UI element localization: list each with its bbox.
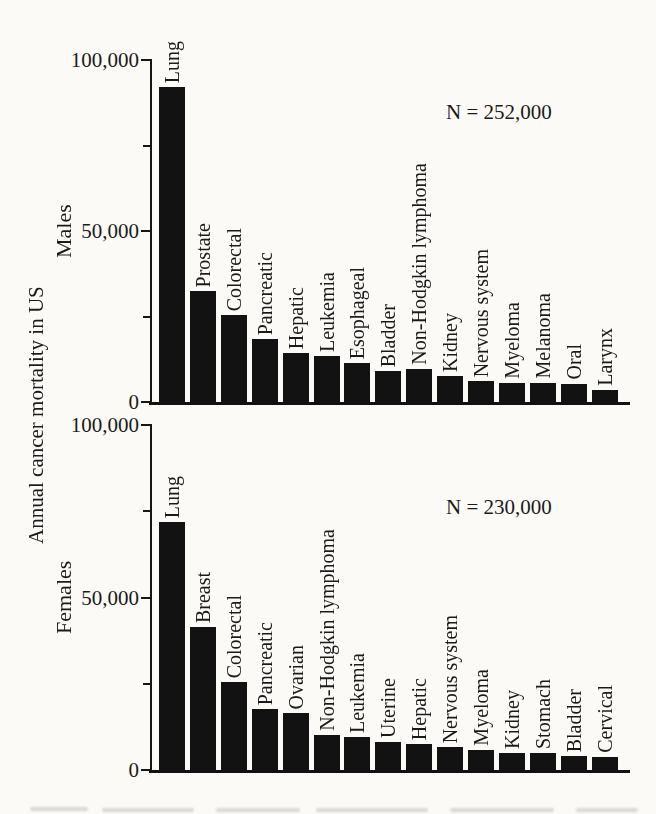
- males-bar-label-melanoma: Melanoma: [533, 293, 553, 379]
- females-bar-label-breast: Breast: [193, 572, 213, 623]
- females-y-minor-tick: [143, 683, 150, 685]
- cutoff-caption-artifact: [216, 808, 300, 812]
- females-bar-label-uterine: Uterine: [378, 678, 398, 738]
- females-bar-label-myeloma: Myeloma: [471, 669, 491, 746]
- males-y-tick-50-000: [141, 230, 150, 232]
- males-bar-kidney: [437, 376, 463, 402]
- males-bar-bladder: [375, 371, 401, 402]
- males-bar-prostate: [190, 291, 216, 402]
- males-bar-label-leukemia: Leukemia: [317, 272, 337, 352]
- females-y-tick-label-50-000: 50,000: [49, 587, 139, 609]
- females-x-baseline: [149, 770, 630, 773]
- females-bar-lung: [159, 522, 185, 770]
- females-bar-label-stomach: Stomach: [533, 679, 553, 749]
- males-bar-melanoma: [530, 383, 556, 402]
- males-y-axis-line: [150, 59, 152, 402]
- males-bar-label-non-hodgkin-lymphoma: Non-Hodgkin lymphoma: [409, 163, 429, 365]
- females-bar-label-pancreatic: Pancreatic: [255, 622, 275, 705]
- females-bar-breast: [190, 627, 216, 770]
- females-bar-uterine: [375, 742, 401, 770]
- cutoff-caption-artifact: [576, 808, 638, 812]
- males-bar-label-hepatic: Hepatic: [286, 287, 306, 349]
- females-bar-non-hodgkin-lymphoma: [314, 735, 340, 770]
- males-y-tick-0: [141, 401, 150, 403]
- females-bar-label-nervous-system: Nervous system: [440, 615, 460, 743]
- males-bar-label-prostate: Prostate: [193, 223, 213, 287]
- males-bar-label-myeloma: Myeloma: [502, 302, 522, 379]
- males-bar-label-esophageal: Esophageal: [347, 267, 367, 359]
- cutoff-caption-artifact: [316, 808, 428, 812]
- females-bar-ovarian: [283, 713, 309, 770]
- males-bar-larynx: [592, 390, 618, 402]
- cutoff-caption-artifact: [30, 807, 88, 811]
- females-y-minor-tick: [143, 510, 150, 512]
- females-bar-label-cervical: Cervical: [595, 685, 615, 753]
- females-bar-pancreatic: [252, 709, 278, 770]
- females-bar-nervous-system: [437, 747, 463, 770]
- males-plot-area: 050,000100,000LungProstateColorectalPanc…: [151, 60, 630, 402]
- males-y-minor-tick: [143, 316, 150, 318]
- males-bar-lung: [159, 87, 185, 402]
- females-y-tick-0: [141, 769, 150, 771]
- males-bar-colorectal: [221, 315, 247, 402]
- females-plot-area: 050,000100,000LungBreastColorectalPancre…: [151, 425, 630, 770]
- males-bar-hepatic: [283, 353, 309, 402]
- males-bar-pancreatic: [252, 339, 278, 402]
- y-axis-title: Annual cancer mortality in US: [23, 60, 49, 770]
- females-bar-stomach: [530, 753, 556, 770]
- males-y-tick-label-50-000: 50,000: [49, 220, 139, 242]
- females-y-axis-line: [150, 424, 152, 770]
- females-bar-label-leukemia: Leukemia: [347, 653, 367, 733]
- males-x-baseline: [149, 402, 630, 405]
- females-bar-hepatic: [406, 744, 432, 770]
- females-bar-label-hepatic: Hepatic: [409, 678, 429, 740]
- females-bar-label-non-hodgkin-lymphoma: Non-Hodgkin lymphoma: [317, 529, 337, 731]
- males-bar-label-bladder: Bladder: [378, 304, 398, 367]
- females-bar-leukemia: [344, 737, 370, 770]
- males-bar-esophageal: [344, 363, 370, 402]
- females-bar-bladder: [561, 756, 587, 770]
- males-bar-non-hodgkin-lymphoma: [406, 369, 432, 402]
- males-bar-label-larynx: Larynx: [595, 328, 615, 386]
- males-bar-label-lung: Lung: [162, 41, 182, 83]
- cutoff-caption-artifact: [102, 808, 194, 812]
- males-bar-leukemia: [314, 356, 340, 402]
- females-y-tick-label-100-000: 100,000: [49, 414, 139, 436]
- females-bar-myeloma: [468, 750, 494, 770]
- females-bar-label-kidney: Kidney: [502, 690, 522, 749]
- males-y-tick-label-100-000: 100,000: [49, 49, 139, 71]
- females-bar-label-ovarian: Ovarian: [286, 645, 306, 709]
- females-y-tick-50-000: [141, 597, 150, 599]
- males-y-tick-label-0: 0: [49, 391, 139, 413]
- males-y-tick-100-000: [141, 59, 150, 61]
- females-bar-cervical: [592, 757, 618, 770]
- females-bar-label-bladder: Bladder: [564, 689, 584, 752]
- males-bar-nervous-system: [468, 381, 494, 402]
- males-bar-oral: [561, 384, 587, 402]
- females-bar-colorectal: [221, 682, 247, 770]
- males-bar-label-nervous-system: Nervous system: [471, 249, 491, 377]
- males-bar-label-colorectal: Colorectal: [224, 228, 244, 311]
- cutoff-caption-artifact: [450, 808, 554, 812]
- males-bar-label-pancreatic: Pancreatic: [255, 252, 275, 335]
- females-bar-label-lung: Lung: [162, 476, 182, 518]
- females-y-tick-label-0: 0: [49, 759, 139, 781]
- females-bar-label-colorectal: Colorectal: [224, 595, 244, 678]
- males-y-minor-tick: [143, 145, 150, 147]
- females-y-tick-100-000: [141, 424, 150, 426]
- males-bar-label-kidney: Kidney: [440, 313, 460, 372]
- males-bar-myeloma: [499, 383, 525, 402]
- females-bar-kidney: [499, 753, 525, 770]
- cancer-mortality-figure: Annual cancer mortality in US Males N = …: [0, 0, 656, 814]
- males-bar-label-oral: Oral: [564, 344, 584, 380]
